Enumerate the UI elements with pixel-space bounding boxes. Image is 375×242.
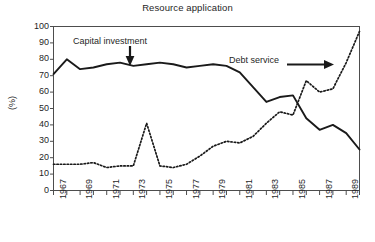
chart-title: Resource application: [0, 2, 375, 13]
x-tick-label: 1983: [270, 178, 280, 198]
x-tick-label: 1987: [324, 178, 334, 198]
y-tick-label: 30: [25, 135, 49, 145]
plot-frame: [54, 27, 360, 191]
x-tick-label: 1967: [58, 178, 68, 198]
x-axis-ticks: [54, 191, 360, 196]
y-tick-label: 50: [25, 103, 49, 113]
y-tick-label: 60: [25, 86, 49, 96]
y-axis-ticks: [50, 27, 54, 191]
y-tick-label: 80: [25, 53, 49, 63]
y-tick-label: 70: [25, 70, 49, 80]
x-tick-label: 1977: [191, 178, 201, 198]
annotation-debt-service: Debt service: [229, 55, 279, 65]
series-line-debt-service: [54, 31, 360, 167]
x-tick-label: 1975: [164, 178, 174, 198]
y-tick-label: 20: [25, 152, 49, 162]
y-tick-label: 100: [25, 21, 49, 31]
x-tick-label: 1969: [84, 178, 94, 198]
series-line-capital-investment: [54, 59, 360, 149]
plot-area: [0, 0, 375, 242]
y-tick-label: 10: [25, 168, 49, 178]
y-tick-label: 0: [25, 185, 49, 195]
chart-figure: Resource application (%) 010203040506070…: [0, 0, 375, 242]
x-tick-label: 1979: [217, 178, 227, 198]
capital-investment-arrow-icon: [126, 46, 135, 66]
x-tick-label: 1981: [244, 178, 254, 198]
debt-service-arrow-icon: [287, 60, 334, 69]
annotation-capital-investment: Capital investment: [73, 36, 147, 46]
x-tick-label: 1973: [137, 178, 147, 198]
y-tick-label: 40: [25, 119, 49, 129]
x-tick-label: 1989: [350, 178, 360, 198]
x-tick-label: 1985: [297, 178, 307, 198]
x-tick-label: 1971: [111, 178, 121, 198]
y-axis-label: (%): [7, 83, 17, 123]
y-tick-label: 90: [25, 37, 49, 47]
